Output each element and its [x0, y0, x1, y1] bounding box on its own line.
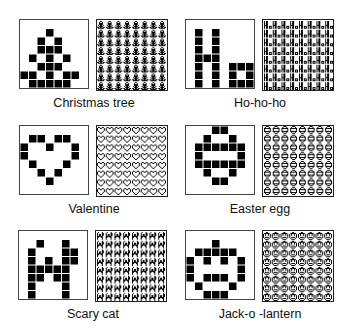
pattern-item-ho-ho-ho[interactable]: Ho-ho-ho — [185, 19, 351, 119]
pattern-editor-grid[interactable] — [185, 19, 255, 89]
pattern-preview-swatch — [262, 19, 334, 91]
pattern-label: Scary cat — [18, 307, 168, 321]
pattern-label: Ho-ho-ho — [185, 96, 335, 110]
pattern-editor-grid[interactable] — [19, 125, 89, 195]
pattern-item-easter-egg[interactable]: Easter egg — [185, 125, 351, 225]
pattern-preview-swatch — [262, 230, 334, 302]
pattern-label: Jack-o -lantern — [185, 307, 335, 321]
pattern-editor-grid[interactable] — [19, 19, 89, 89]
pattern-preview-swatch — [262, 125, 334, 197]
pattern-label: Valentine — [19, 202, 169, 216]
pattern-label: Christmas tree — [19, 96, 169, 110]
pattern-item-christmas-tree[interactable]: Christmas tree — [19, 19, 189, 119]
pattern-preview-swatch — [96, 19, 168, 91]
pattern-preview-swatch — [95, 230, 167, 302]
pattern-item-valentine[interactable]: Valentine — [19, 125, 189, 225]
pattern-label: Easter egg — [185, 202, 335, 216]
pattern-editor-grid[interactable] — [185, 230, 255, 300]
pattern-item-scary-cat[interactable]: Scary cat — [18, 230, 188, 330]
pattern-editor-grid[interactable] — [185, 125, 255, 195]
pattern-editor-grid[interactable] — [18, 230, 88, 300]
pattern-preview-swatch — [96, 125, 168, 197]
pattern-item-jack-o-lantern[interactable]: Jack-o -lantern — [185, 230, 351, 330]
